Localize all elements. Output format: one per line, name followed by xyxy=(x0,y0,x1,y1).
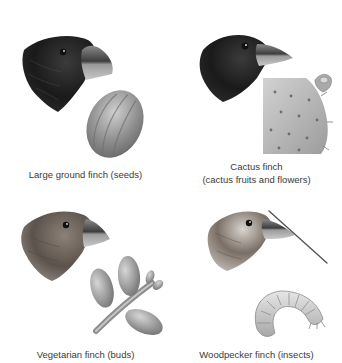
caption-large-ground-finch: Large ground finch (seeds) xyxy=(0,169,171,182)
buds-twig-icon xyxy=(86,255,167,340)
panel-vegetarian-finch: Vegetarian finch (buds) xyxy=(0,181,171,363)
panel-woodpecker-finch: Woodpecker finch (insects) xyxy=(171,181,342,363)
seed-icon xyxy=(76,81,155,167)
grub-icon xyxy=(255,291,325,336)
vegetarian-finch-illustration xyxy=(0,181,171,363)
panel-cactus-finch: Cactus finch (cactus fruits and flowers) xyxy=(171,0,342,181)
cactus-finch-illustration xyxy=(171,0,342,181)
finch-head-with-twig-tool-icon xyxy=(208,211,327,271)
caption-woodpecker-finch: Woodpecker finch (insects) xyxy=(171,349,342,362)
caption-vegetarian-finch: Vegetarian finch (buds) xyxy=(0,349,171,362)
caption-line: Large ground finch (seeds) xyxy=(0,169,171,182)
woodpecker-finch-illustration xyxy=(171,181,342,363)
panel-large-ground-finch: Large ground finch (seeds) xyxy=(0,0,171,181)
caption-line: Vegetarian finch (buds) xyxy=(0,349,171,362)
large-ground-finch-illustration xyxy=(0,0,171,181)
cactus-pad-icon xyxy=(263,74,333,154)
caption-line: Woodpecker finch (insects) xyxy=(171,349,342,362)
caption-line: Cactus finch xyxy=(171,161,342,174)
